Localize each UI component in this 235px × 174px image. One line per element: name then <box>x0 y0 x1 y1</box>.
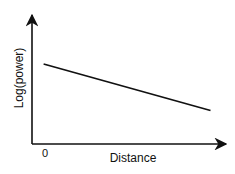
series-layer <box>44 64 211 111</box>
y-axis-label: Log(power) <box>12 48 26 109</box>
chart: 0 Distance Log(power) <box>0 0 235 174</box>
x-tick-label-origin: 0 <box>42 147 48 159</box>
series-line-log-power-vs-distance <box>44 64 211 111</box>
x-axis-label: Distance <box>110 151 157 165</box>
